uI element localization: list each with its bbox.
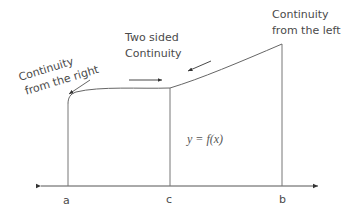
label-left-continuity-line1: Continuity xyxy=(272,8,329,21)
tick-label-c: c xyxy=(166,193,172,206)
label-two-sided-line2: Continuity xyxy=(125,47,182,60)
function-label: y = f(x) xyxy=(186,132,223,146)
tick-label-b: b xyxy=(279,193,286,206)
continuity-diagram: Continuity from the right Two sided Cont… xyxy=(0,0,354,217)
label-left-continuity-line2: from the left xyxy=(272,24,341,37)
tick-label-a: a xyxy=(63,194,70,207)
arrow-two-sided-left xyxy=(188,61,211,71)
label-two-sided-line1: Two sided xyxy=(124,31,179,44)
